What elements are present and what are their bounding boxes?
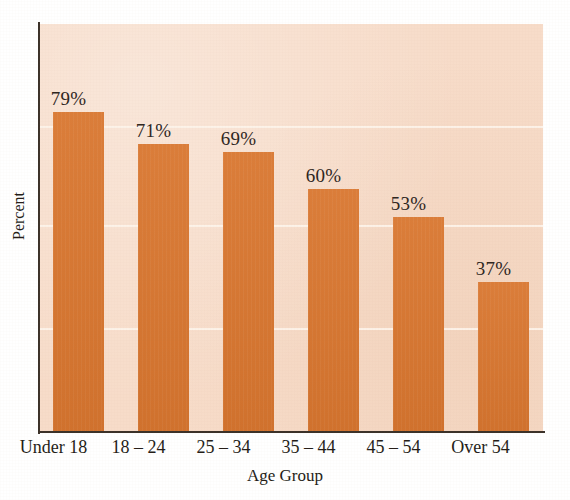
bar-chart-figure: 79% 71% 69% 60% 53% 37% Under 18 18 – 24… <box>0 0 570 500</box>
bar-over-54[interactable] <box>478 282 529 432</box>
bar-45-54[interactable] <box>393 217 444 432</box>
gridline-25 <box>40 328 543 330</box>
bar-value-25-34: 69% <box>198 128 279 150</box>
x-axis-title: Age Group <box>0 466 570 486</box>
bar-value-35-44: 60% <box>283 165 364 187</box>
bar-value-over-54: 37% <box>453 258 534 280</box>
bar-18-24[interactable] <box>138 144 189 432</box>
y-axis-line <box>38 22 40 434</box>
x-tick-label-18-24: 18 – 24 <box>98 437 179 458</box>
y-axis-title: Percent <box>10 171 28 261</box>
x-axis-line <box>38 431 545 433</box>
x-tick-label-over-54: Over 54 <box>438 437 523 458</box>
plot-area <box>40 24 543 432</box>
bar-35-44[interactable] <box>308 189 359 432</box>
bar-under-18[interactable] <box>53 112 104 432</box>
x-tick-label-45-54: 45 – 54 <box>353 437 434 458</box>
x-tick-label-25-34: 25 – 34 <box>183 437 264 458</box>
x-tick-label-35-44: 35 – 44 <box>268 437 349 458</box>
bar-value-45-54: 53% <box>368 193 449 215</box>
x-tick-label-under-18: Under 18 <box>13 437 94 458</box>
bar-value-18-24: 71% <box>113 120 194 142</box>
gridline-50 <box>40 225 543 227</box>
bar-25-34[interactable] <box>223 152 274 432</box>
bar-value-under-18: 79% <box>28 88 109 110</box>
